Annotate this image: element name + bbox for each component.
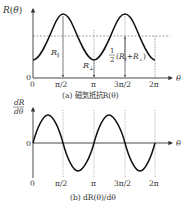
tick-b-0: 0 [30,179,35,188]
origin-label-b: 0 [26,139,31,148]
figure: R(θ) θ 0 R∥ R⊥ 1 2 (R∥+R⊥) 0 π/2 π 3π/2 … [0,0,192,212]
tick-a-pi-half: π/2 [55,80,67,89]
y-label-b: dR dθ [13,98,25,116]
tick-b-pi: π [91,179,96,188]
svg-text:(R∥+R⊥): (R∥+R⊥) [116,52,146,62]
r-perp-label: R⊥ [82,61,94,71]
tick-a-2pi: 2π [149,80,159,89]
tick-b-2pi: 2π [149,179,159,188]
r-par-label: R∥ [50,48,59,58]
svg-text:1: 1 [110,47,114,55]
mean-label: 1 2 (R∥+R⊥) [109,47,146,64]
x-label-a: θ [176,74,181,83]
svg-text:2: 2 [110,56,114,64]
svg-text:dR: dR [14,98,25,107]
tick-a-3pi-half: 3π/2 [114,80,131,89]
tick-a-0: 0 [30,80,35,89]
chart-b: dR dθ 0 θ 0 π/2 π 3π/2 2π (b) dR(θ)/dθ [13,98,181,202]
chart-a: R(θ) θ 0 R∥ R⊥ 1 2 (R∥+R⊥) 0 π/2 π 3π/2 … [2,5,181,100]
tick-a-pi: π [91,80,96,89]
caption-a: (a) 磁気抵抗R(θ) [62,90,119,100]
x-label-b: θ [176,139,181,148]
tick-b-3pi-half: 3π/2 [114,179,131,188]
y-label-a: R(θ) [2,5,22,15]
svg-text:dθ: dθ [14,107,24,116]
caption-b: (b) dR(θ)/dθ [70,193,116,202]
tick-b-pi-half: π/2 [55,179,67,188]
